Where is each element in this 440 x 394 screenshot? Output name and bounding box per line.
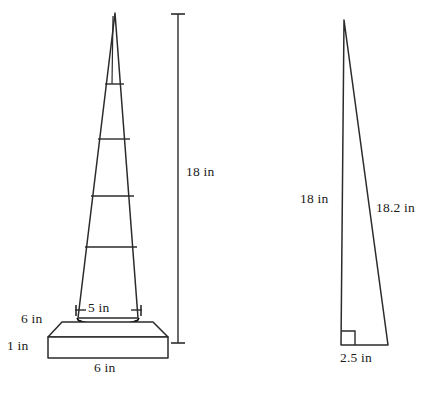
cone-height-label: 18 in <box>186 165 214 179</box>
height-dimension-line <box>171 14 185 343</box>
base-front-face <box>48 337 168 358</box>
base-depth-label: 6 in <box>21 312 42 326</box>
base-top-face <box>48 322 168 337</box>
geometry-svg <box>0 0 440 394</box>
cone-outline <box>78 13 138 318</box>
right-triangle-group <box>341 20 388 345</box>
triangle-vertical-leg-label: 18 in <box>300 192 328 206</box>
traffic-cone-group <box>48 13 185 358</box>
triangle-hypotenuse-label: 18.2 in <box>376 201 415 215</box>
base-width-label: 6 in <box>94 361 115 375</box>
triangle-horizontal-leg-label: 2.5 in <box>340 351 372 365</box>
diagram-canvas: 18 in 5 in 6 in 1 in 6 in 18 in 18.2 in … <box>0 0 440 394</box>
cone-diameter-label: 5 in <box>88 301 109 315</box>
right-triangle-outline <box>341 20 388 345</box>
base-thickness-label: 1 in <box>7 339 28 353</box>
